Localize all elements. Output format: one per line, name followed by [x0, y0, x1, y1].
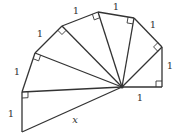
right-angle-mark [154, 43, 158, 52]
edge-length-label: 1 [137, 92, 143, 103]
right-angle-mark [156, 81, 162, 87]
edge-length-label: 1 [167, 60, 173, 71]
center-point [120, 85, 123, 88]
unit-edge [62, 12, 98, 26]
edge-length-label: 1 [8, 108, 14, 119]
spoke-line [62, 26, 122, 87]
edge-length-label: 1 [14, 66, 20, 77]
edge-length-label: 1 [37, 28, 43, 39]
spiral-diagram: 11111111x [0, 0, 182, 140]
diagram-canvas: 11111111x [0, 0, 182, 140]
hypotenuse-x-label: x [72, 114, 78, 125]
edge-length-label: 1 [150, 19, 156, 30]
edge-length-label: 1 [113, 1, 119, 12]
right-angle-mark [58, 30, 66, 34]
unit-edge [98, 12, 134, 18]
edge-labels: 11111111x [8, 1, 173, 125]
right-angle-mark [22, 92, 28, 98]
spoke-line [98, 12, 122, 87]
spoke-line [22, 87, 122, 132]
edge-length-label: 1 [73, 5, 79, 16]
unit-edge [134, 18, 162, 47]
spoke-line [35, 53, 122, 87]
spoke-line [22, 87, 122, 92]
